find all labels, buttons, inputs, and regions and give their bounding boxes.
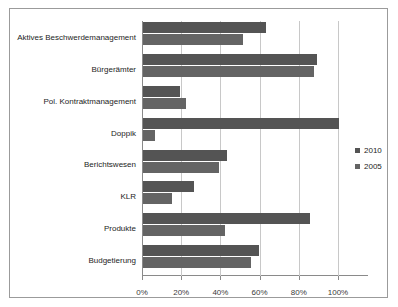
legend-swatch-icon-2010	[355, 148, 360, 153]
chart-frame: 0%20%40%60%80%100% Aktives Beschwerdeman…	[9, 8, 388, 298]
bar-group: Bürgerämter	[142, 53, 338, 85]
legend-label-2010: 2010	[364, 146, 382, 155]
bar-2005-2	[143, 66, 314, 77]
category-label: Produkte	[104, 224, 136, 233]
x-axis-tick-label: 100%	[328, 288, 348, 297]
x-axis-tick-label: 80%	[291, 288, 307, 297]
bar-2010-4	[143, 118, 339, 129]
bar-2005-1	[143, 34, 243, 45]
bar-group: Produkte	[142, 212, 338, 244]
plot-area: 0%20%40%60%80%100% Aktives Beschwerdeman…	[142, 21, 338, 276]
bar-2005-8	[143, 257, 251, 268]
gridline	[338, 21, 339, 276]
legend-swatch-icon-2005	[355, 164, 360, 169]
category-label: Doppik	[111, 128, 136, 137]
bar-2005-4	[143, 130, 155, 141]
bar-2010-5	[143, 150, 227, 161]
bar-2005-6	[143, 193, 172, 204]
bar-2010-3	[143, 86, 180, 97]
x-axis-tick-label: 60%	[252, 288, 268, 297]
bar-group: KLR	[142, 180, 338, 212]
category-label: Budgetierung	[88, 256, 136, 265]
category-label: Aktives Beschwerdemanagement	[17, 32, 136, 41]
category-label: Bürgerämter	[92, 64, 136, 73]
x-axis-tick	[181, 276, 182, 280]
bar-group: Pol. Kontraktmanagement	[142, 85, 338, 117]
category-label: Pol. Kontraktmanagement	[44, 96, 137, 105]
bar-group: Berichtswesen	[142, 149, 338, 181]
x-axis-tick	[338, 276, 339, 280]
bar-2010-2	[143, 54, 317, 65]
x-axis-tick-label: 40%	[212, 288, 228, 297]
bar-group: Doppik	[142, 117, 338, 149]
chart-screenshot: 0%20%40%60%80%100% Aktives Beschwerdeman…	[0, 0, 398, 307]
x-axis-tick	[260, 276, 261, 280]
bar-2005-7	[143, 225, 225, 236]
legend-item-2005: 2005	[355, 162, 382, 171]
legend-label-2005: 2005	[364, 162, 382, 171]
legend-item-2010: 2010	[355, 146, 382, 155]
x-axis-tick-label: 0%	[136, 288, 148, 297]
bar-2010-1	[143, 22, 266, 33]
x-axis-tick	[142, 276, 143, 280]
bar-group: Budgetierung	[142, 244, 338, 276]
bar-2005-5	[143, 162, 219, 173]
category-label: KLR	[120, 192, 136, 201]
bar-2010-7	[143, 213, 310, 224]
bar-group: Aktives Beschwerdemanagement	[142, 21, 338, 53]
x-axis-tick	[220, 276, 221, 280]
chart-legend: 2010 2005	[355, 146, 382, 178]
bar-2010-8	[143, 245, 259, 256]
bar-2010-6	[143, 181, 194, 192]
x-axis-tick-label: 20%	[173, 288, 189, 297]
x-axis-tick	[299, 276, 300, 280]
category-label: Berichtswesen	[84, 160, 136, 169]
bar-2005-3	[143, 98, 186, 109]
